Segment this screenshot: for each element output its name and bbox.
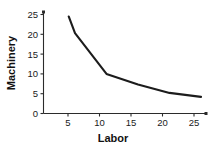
y-tick-label: 25 — [27, 9, 38, 20]
x-tick-label: 5 — [65, 117, 70, 128]
y-tick-label: 15 — [27, 49, 38, 60]
x-tick-label: 10 — [94, 117, 105, 128]
line-chart: 0 5 10 15 20 25 5 10 15 20 25 Labor M — [0, 0, 217, 150]
y-tick-label: 0 — [33, 108, 38, 119]
y-tick-label: 10 — [27, 68, 38, 79]
y-axis-title: Machinery — [5, 35, 17, 90]
x-tick-label: 25 — [189, 117, 200, 128]
x-tick-label: 15 — [126, 117, 137, 128]
x-axis-end-cap — [205, 112, 208, 115]
chart-container: 0 5 10 15 20 25 5 10 15 20 25 Labor M — [0, 0, 217, 150]
x-tick-label: 20 — [157, 117, 168, 128]
x-axis-title: Labor — [98, 132, 129, 144]
y-axis-end-cap — [42, 11, 45, 14]
y-tick-label: 20 — [27, 29, 38, 40]
y-tick-label: 5 — [33, 88, 38, 99]
